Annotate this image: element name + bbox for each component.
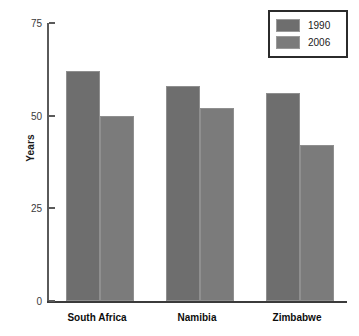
x-axis-category-label: South Africa (47, 312, 147, 323)
legend-item-label: 2006 (308, 37, 330, 48)
legend-item[interactable]: 2006 (276, 34, 340, 51)
x-axis-category-label: Namibia (147, 312, 247, 323)
y-axis-tick-label: 0 (36, 296, 42, 307)
y-axis-tick-mark (49, 115, 55, 117)
legend-swatch-icon (276, 36, 300, 49)
x-axis-category-label: Zimbabwe (247, 312, 347, 323)
bar (200, 108, 234, 301)
bar (300, 145, 334, 301)
bar (66, 71, 100, 301)
bar (266, 93, 300, 301)
y-axis-title: Years (25, 113, 36, 183)
y-axis-tick-label: 50 (31, 110, 42, 121)
y-axis-tick-mark (49, 300, 55, 302)
legend-item[interactable]: 1990 (276, 17, 340, 34)
y-axis-tick-label: 75 (31, 18, 42, 29)
bar (166, 86, 200, 301)
x-axis-line (47, 301, 347, 303)
legend: 19902006 (268, 10, 348, 58)
y-axis-tick-mark (49, 22, 55, 24)
y-axis-line (47, 23, 49, 303)
y-axis-tick-label: 25 (31, 203, 42, 214)
plot-area: 7550250 South AfricaNamibiaZimbabwe (47, 20, 347, 302)
legend-swatch-icon (276, 19, 300, 32)
legend-item-label: 1990 (308, 20, 330, 31)
bar (100, 116, 134, 301)
y-axis-tick-mark (49, 207, 55, 209)
bar-chart: Years 7550250 South AfricaNamibiaZimbabw… (0, 0, 359, 336)
